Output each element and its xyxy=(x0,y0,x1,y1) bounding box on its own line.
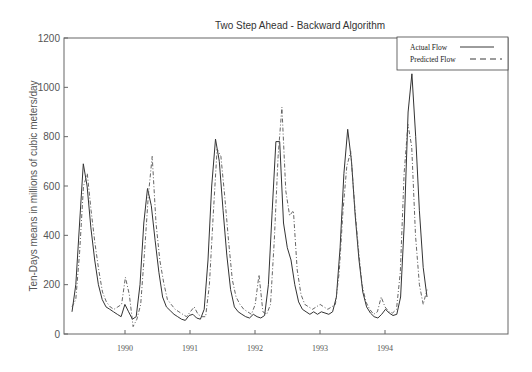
svg-text:1990: 1990 xyxy=(117,344,133,353)
legend: Actual Flow Predicted Flow xyxy=(397,37,508,70)
svg-text:1000: 1000 xyxy=(38,82,61,93)
svg-text:800: 800 xyxy=(43,131,60,142)
predicted-flow-line xyxy=(72,107,427,327)
svg-text:400: 400 xyxy=(43,230,60,241)
legend-label-predicted: Predicted Flow xyxy=(410,55,456,64)
svg-text:Ten-Days means in millions of: Ten-Days means in millions of cubic mete… xyxy=(28,80,39,291)
svg-text:0: 0 xyxy=(54,329,60,340)
svg-text:1200: 1200 xyxy=(38,33,61,44)
svg-text:1992: 1992 xyxy=(247,344,263,353)
line-chart: Two Step Ahead - Backward Algorithm Ten-… xyxy=(0,0,532,372)
svg-text:200: 200 xyxy=(43,279,60,290)
svg-text:600: 600 xyxy=(43,181,60,192)
plot-area xyxy=(72,74,427,327)
chart-title: Two Step Ahead - Backward Algorithm xyxy=(215,20,385,31)
legend-box xyxy=(397,37,508,70)
x-ticks: 19901991199219931994 xyxy=(117,330,393,353)
svg-text:1994: 1994 xyxy=(377,344,393,353)
svg-text:1993: 1993 xyxy=(312,344,328,353)
actual-flow-line xyxy=(72,74,427,321)
svg-text:1991: 1991 xyxy=(182,344,198,353)
legend-label-actual: Actual Flow xyxy=(410,43,448,52)
axes-frame xyxy=(64,38,508,334)
y-ticks: 020040060080010001200 xyxy=(38,33,68,340)
y-axis-label: Ten-Days means in millions of cubic mete… xyxy=(28,80,39,291)
